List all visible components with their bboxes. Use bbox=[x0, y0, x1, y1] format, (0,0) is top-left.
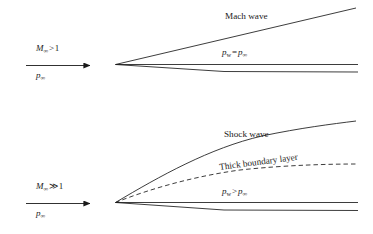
wall-pressure-relation-hypersonic: > bbox=[231, 186, 238, 196]
mach-value-hypersonic: 1 bbox=[59, 181, 64, 191]
supersonic-panel-geometry bbox=[26, 8, 358, 72]
inflow-pressure-label-supersonic: p∞ bbox=[36, 71, 45, 81]
flow-comparison-figure: M∞>1 p∞ Mach wave pw=p∞ M∞≫1 p∞ Shock wa… bbox=[0, 0, 373, 234]
mach-relation-hypersonic: ≫ bbox=[48, 181, 59, 191]
wedge-lower-surface-hypersonic-aft bbox=[224, 210, 358, 211]
wedge-lower-surface-supersonic-aft bbox=[224, 72, 358, 73]
wall-pressure-reference-subscript-supersonic: ∞ bbox=[242, 51, 247, 58]
shock-wave-label: Shock wave bbox=[224, 130, 269, 139]
inflow-pressure-label-hypersonic: p∞ bbox=[36, 209, 45, 219]
pressure-subscript-supersonic: ∞ bbox=[41, 74, 46, 81]
inflow-mach-label-supersonic: M∞>1 bbox=[36, 44, 59, 54]
hypersonic-panel-geometry bbox=[26, 121, 358, 211]
wedge-lower-surface-hypersonic bbox=[116, 203, 225, 211]
mach-symbol-hypersonic: M bbox=[36, 181, 44, 191]
wall-pressure-label-hypersonic: pw>p∞ bbox=[222, 187, 247, 197]
wall-pressure-reference-subscript-hypersonic: ∞ bbox=[242, 190, 247, 197]
wall-pressure-label-supersonic: pw=p∞ bbox=[222, 48, 247, 58]
mach-relation-supersonic: > bbox=[48, 43, 55, 53]
wall-pressure-relation-supersonic: = bbox=[231, 47, 238, 57]
mach-value-supersonic: 1 bbox=[55, 43, 60, 53]
wedge-lower-surface-supersonic bbox=[116, 65, 225, 72]
inflow-mach-label-hypersonic: M∞≫1 bbox=[36, 182, 63, 192]
pressure-subscript-hypersonic: ∞ bbox=[41, 212, 46, 219]
mach-symbol-supersonic: M bbox=[36, 43, 44, 53]
mach-wave-label: Mach wave bbox=[225, 12, 268, 21]
diagram-lines bbox=[0, 0, 373, 234]
